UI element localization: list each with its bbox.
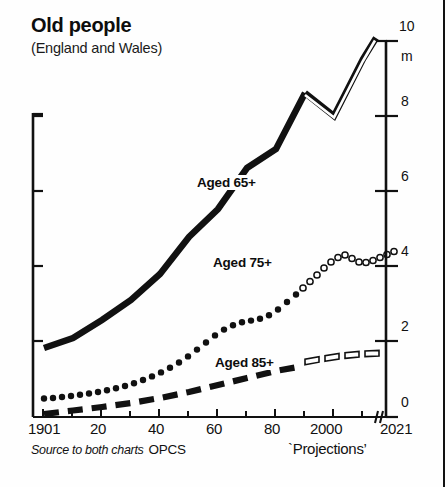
x-tick-label-1901: 1901 <box>28 420 60 437</box>
x-tick-label-2021: 2021 <box>380 420 412 437</box>
series-label-aged-65: Aged 65+ <box>196 175 257 190</box>
source-note: Source to both chartsOPCS <box>31 442 186 457</box>
x-tick-label-40: 40 <box>148 420 164 437</box>
series-label-aged-75: Aged 75+ <box>212 255 273 270</box>
series-75-historic-dots <box>41 291 299 401</box>
y-tick-label-10: 10 <box>399 18 415 34</box>
source-note-italic: Source to both charts <box>31 443 144 457</box>
y-axis-unit: m <box>401 48 413 64</box>
x-tick-label-20: 20 <box>90 420 106 437</box>
y-tick-label-4: 4 <box>401 243 409 259</box>
y-axis-left-ticks <box>33 116 43 341</box>
series-75-projection-circles <box>300 248 397 291</box>
x-tick-label-80: 80 <box>264 420 280 437</box>
x-axis-ticks <box>43 409 362 417</box>
page-edge-rule <box>443 0 445 487</box>
chart-plot-area <box>0 0 448 487</box>
y-tick-label-0: 0 <box>401 394 409 410</box>
series-aged-85-plus <box>44 350 379 414</box>
x-tick-label-2000: 2000 <box>310 420 342 437</box>
x-tick-label-60: 60 <box>206 420 222 437</box>
y-tick-label-2: 2 <box>401 318 409 334</box>
series-85-projection-dashes <box>305 350 379 364</box>
chart-page: Old people (England and Wales) <box>0 0 448 487</box>
y-tick-label-8: 8 <box>401 93 409 109</box>
projections-note: `Projections’ <box>288 440 367 457</box>
y-tick-label-6: 6 <box>401 168 409 184</box>
series-label-aged-85: Aged 85+ <box>214 355 275 370</box>
series-aged-65-plus <box>44 38 376 348</box>
source-note-agency: OPCS <box>144 442 186 457</box>
axis-frame <box>33 41 392 417</box>
